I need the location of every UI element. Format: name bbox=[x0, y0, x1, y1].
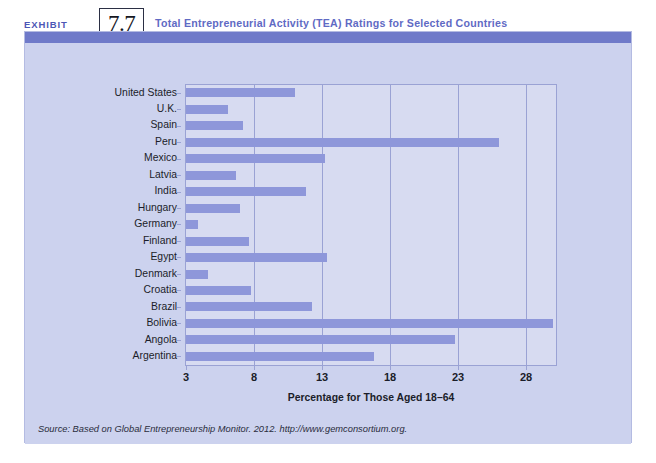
y-tick-mark bbox=[177, 175, 181, 176]
bar-row bbox=[186, 332, 556, 348]
y-axis-label: Peru bbox=[155, 136, 177, 147]
bar bbox=[186, 154, 325, 163]
y-axis-label: U.K. bbox=[157, 103, 177, 114]
bar bbox=[186, 237, 249, 246]
y-axis-label: Brazil bbox=[151, 301, 177, 312]
y-tick-mark bbox=[177, 224, 181, 225]
bar-row bbox=[186, 134, 556, 150]
x-tick-label: 13 bbox=[302, 371, 342, 383]
y-axis-label: Angola bbox=[145, 334, 177, 345]
x-tick-label: 28 bbox=[506, 371, 546, 383]
bars-layer bbox=[186, 85, 556, 365]
y-axis-label: Latvia bbox=[149, 169, 177, 180]
y-tick-mark bbox=[177, 208, 181, 209]
bar-row bbox=[186, 118, 556, 134]
bar bbox=[186, 286, 251, 295]
y-tick-mark bbox=[177, 109, 181, 110]
y-tick-mark bbox=[177, 142, 181, 143]
y-tick-mark bbox=[177, 323, 181, 324]
x-axis-title: Percentage for Those Aged 18–64 bbox=[185, 392, 557, 403]
y-axis-label: India bbox=[154, 185, 177, 196]
y-tick-mark bbox=[177, 159, 181, 160]
y-axis-label-row: Latvia bbox=[25, 167, 181, 183]
y-axis-label-row: Croatia bbox=[25, 283, 181, 299]
bar bbox=[186, 171, 236, 180]
y-tick-mark bbox=[177, 126, 181, 127]
x-tick-label: 3 bbox=[166, 371, 206, 383]
y-tick-mark bbox=[177, 274, 181, 275]
bar-row bbox=[186, 233, 556, 249]
bar bbox=[186, 302, 312, 311]
bar bbox=[186, 121, 243, 130]
y-axis-label: Bolivia bbox=[146, 317, 177, 328]
y-axis-label-row: Denmark bbox=[25, 266, 181, 282]
bar-row bbox=[186, 101, 556, 117]
bar bbox=[186, 187, 306, 196]
y-tick-mark bbox=[177, 307, 181, 308]
x-tick-mark bbox=[458, 366, 459, 370]
bar bbox=[186, 270, 208, 279]
bar-row bbox=[186, 299, 556, 315]
y-tick-mark bbox=[177, 257, 181, 258]
x-tick-mark bbox=[526, 366, 527, 370]
y-tick-mark bbox=[177, 93, 181, 94]
bar-row bbox=[186, 151, 556, 167]
y-axis-label: Germany bbox=[134, 218, 177, 229]
x-tick-label: 8 bbox=[234, 371, 274, 383]
y-axis-label-row: U.K. bbox=[25, 101, 181, 117]
bar bbox=[186, 105, 228, 114]
y-axis-label-row: Angola bbox=[25, 332, 181, 348]
y-axis-label-row: Argentina bbox=[25, 349, 181, 365]
y-axis-label: Argentina bbox=[133, 350, 177, 361]
y-axis-label: Croatia bbox=[144, 284, 178, 295]
y-axis-label: United States bbox=[115, 87, 177, 98]
bar-row bbox=[186, 184, 556, 200]
y-axis-label-row: Spain bbox=[25, 118, 181, 134]
y-tick-mark bbox=[177, 241, 181, 242]
x-tick-label: 18 bbox=[370, 371, 410, 383]
y-axis-label: Hungary bbox=[138, 202, 177, 213]
y-axis-labels: United StatesU.K.SpainPeruMexicoLatviaIn… bbox=[25, 85, 181, 365]
x-tick-mark bbox=[322, 366, 323, 370]
y-tick-mark bbox=[177, 290, 181, 291]
bar bbox=[186, 352, 374, 361]
y-tick-mark bbox=[177, 192, 181, 193]
bar-row bbox=[186, 217, 556, 233]
bar-row bbox=[186, 349, 556, 365]
bar-row bbox=[186, 85, 556, 101]
y-axis-label-row: Egypt bbox=[25, 250, 181, 266]
bar bbox=[186, 253, 327, 262]
bar bbox=[186, 220, 198, 229]
y-axis-label: Spain bbox=[150, 119, 177, 130]
y-axis-label-row: Hungary bbox=[25, 200, 181, 216]
bar-row bbox=[186, 283, 556, 299]
y-axis-label-row: United States bbox=[25, 85, 181, 101]
bar bbox=[186, 319, 553, 328]
bar bbox=[186, 88, 295, 97]
bar bbox=[186, 335, 455, 344]
y-axis-label: Mexico bbox=[144, 152, 177, 163]
bar-row bbox=[186, 167, 556, 183]
bar bbox=[186, 138, 499, 147]
bar bbox=[186, 204, 240, 213]
exhibit-label: EXHIBIT bbox=[24, 19, 68, 30]
bar-row bbox=[186, 316, 556, 332]
y-axis-label: Denmark bbox=[135, 268, 177, 279]
y-axis-label-row: India bbox=[25, 184, 181, 200]
y-axis-label-row: Peru bbox=[25, 134, 181, 150]
y-tick-mark bbox=[177, 340, 181, 341]
exhibit-panel: United StatesU.K.SpainPeruMexicoLatviaIn… bbox=[24, 31, 632, 443]
panel-body: United StatesU.K.SpainPeruMexicoLatviaIn… bbox=[25, 43, 631, 444]
y-tick-mark bbox=[177, 356, 181, 357]
y-axis-label-row: Brazil bbox=[25, 299, 181, 315]
y-axis-label-row: Germany bbox=[25, 217, 181, 233]
y-axis-label-row: Finland bbox=[25, 233, 181, 249]
y-axis-label-row: Mexico bbox=[25, 151, 181, 167]
y-axis-label: Egypt bbox=[150, 251, 177, 262]
panel-accent-band bbox=[25, 32, 631, 43]
source-note: Source: Based on Global Entrepreneurship… bbox=[38, 424, 407, 434]
bar-row bbox=[186, 200, 556, 216]
bar-row bbox=[186, 250, 556, 266]
page-title: Total Entrepreneurial Activity (TEA) Rat… bbox=[155, 17, 507, 29]
bar-chart: United StatesU.K.SpainPeruMexicoLatviaIn… bbox=[25, 43, 633, 444]
